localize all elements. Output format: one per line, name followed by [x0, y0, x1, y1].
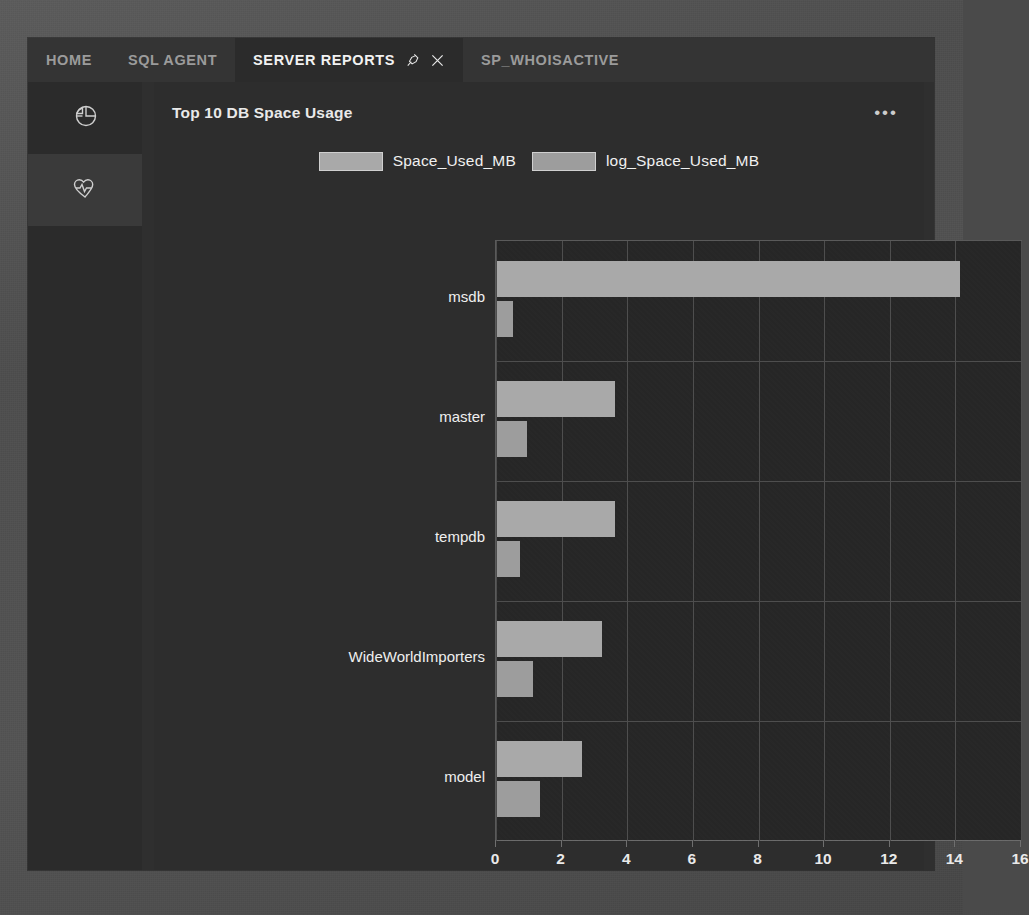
bar-master-space-used[interactable]: [497, 381, 615, 417]
x-gridline: [1021, 241, 1022, 841]
x-gridline: [627, 241, 628, 841]
x-tick-label: 12: [880, 850, 897, 868]
sidebar-item-health[interactable]: [28, 154, 142, 226]
legend-label-space-used: Space_Used_MB: [393, 152, 516, 170]
x-gridline: [890, 241, 891, 841]
close-icon[interactable]: [430, 53, 445, 68]
bar-wideworldimporters-log-space-used[interactable]: [497, 661, 533, 697]
content-area: Top 10 DB Space Usage ••• Space_Used_MB …: [142, 82, 934, 870]
tab-server-reports-label: SERVER REPORTS: [253, 52, 395, 68]
x-gridline: [824, 241, 825, 841]
plot-area: [495, 240, 1022, 841]
tab-sql-agent-label: SQL AGENT: [128, 52, 217, 68]
x-gridline: [693, 241, 694, 841]
bar-model-space-used[interactable]: [497, 741, 582, 777]
bar-msdb-space-used[interactable]: [497, 261, 960, 297]
category-gridline: [496, 721, 1021, 722]
category-gridline: [496, 361, 1021, 362]
x-tick-mark: [1020, 840, 1021, 847]
tab-sp-whoisactive[interactable]: SP_WHOISACTIVE: [463, 38, 637, 82]
bar-tempdb-log-space-used[interactable]: [497, 541, 520, 577]
tab-actions: [406, 53, 445, 68]
x-tick-mark: [626, 840, 627, 847]
bar-tempdb-space-used[interactable]: [497, 501, 615, 537]
legend-label-log-space-used: log_Space_Used_MB: [606, 152, 759, 170]
x-tick-mark: [561, 840, 562, 847]
x-tick-mark: [889, 840, 890, 847]
legend-swatch-log-space-used: [532, 152, 596, 171]
category-gridline: [496, 481, 1021, 482]
card-header: Top 10 DB Space Usage •••: [154, 82, 924, 144]
tab-sp-whoisactive-label: SP_WHOISACTIVE: [481, 52, 619, 68]
x-tick-label: 0: [491, 850, 500, 868]
chart-area: msdbmastertempdbWideWorldImportersmodel …: [154, 232, 924, 860]
x-tick-mark: [758, 840, 759, 847]
app-window: HOME SQL AGENT SERVER REPORTS: [28, 38, 934, 870]
category-label-model: model: [154, 768, 485, 785]
bar-master-log-space-used[interactable]: [497, 421, 527, 457]
report-card: Top 10 DB Space Usage ••• Space_Used_MB …: [154, 82, 924, 870]
x-tick-label: 14: [946, 850, 963, 868]
x-gridline: [759, 241, 760, 841]
x-tick-label: 4: [622, 850, 631, 868]
tab-home[interactable]: HOME: [28, 38, 110, 82]
bar-wideworldimporters-space-used[interactable]: [497, 621, 602, 657]
pin-icon[interactable]: [406, 53, 421, 68]
pie-chart-icon: [71, 102, 99, 134]
sidebar-item-reports[interactable]: [28, 82, 142, 154]
legend-swatch-space-used: [319, 152, 383, 171]
sidebar: [28, 82, 142, 870]
x-tick-label: 2: [556, 850, 565, 868]
x-tick-mark: [495, 840, 496, 847]
tab-bar: HOME SQL AGENT SERVER REPORTS: [28, 38, 934, 82]
x-tick-label: 16: [1011, 850, 1028, 868]
legend-item-space-used[interactable]: Space_Used_MB: [319, 152, 516, 171]
category-label-tempdb: tempdb: [154, 528, 485, 545]
x-tick-label: 10: [815, 850, 832, 868]
x-gridline: [955, 241, 956, 841]
page-title: Top 10 DB Space Usage: [172, 104, 353, 122]
bar-model-log-space-used[interactable]: [497, 781, 540, 817]
more-options-icon[interactable]: •••: [866, 102, 906, 124]
category-label-msdb: msdb: [154, 288, 485, 305]
tab-sql-agent[interactable]: SQL AGENT: [110, 38, 235, 82]
category-label-master: master: [154, 408, 485, 425]
chart-legend: Space_Used_MB log_Space_Used_MB: [154, 140, 924, 182]
legend-item-log-space-used[interactable]: log_Space_Used_MB: [532, 152, 759, 171]
tab-home-label: HOME: [46, 52, 92, 68]
tab-server-reports[interactable]: SERVER REPORTS: [235, 38, 463, 82]
category-label-wideworldimporters: WideWorldImporters: [154, 648, 485, 665]
x-tick-label: 8: [753, 850, 762, 868]
heart-pulse-icon: [71, 174, 99, 206]
x-tick-mark: [954, 840, 955, 847]
category-gridline: [496, 601, 1021, 602]
x-tick-mark: [823, 840, 824, 847]
bar-msdb-log-space-used[interactable]: [497, 301, 513, 337]
x-tick-mark: [692, 840, 693, 847]
x-tick-label: 6: [688, 850, 697, 868]
window-body: Top 10 DB Space Usage ••• Space_Used_MB …: [28, 82, 934, 870]
